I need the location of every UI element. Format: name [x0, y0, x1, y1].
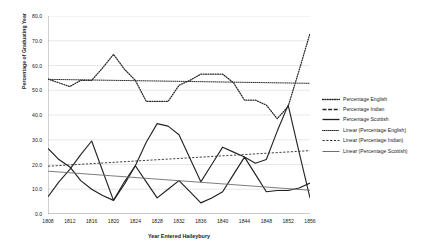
trendline-linear-percentage-indian: [48, 151, 310, 167]
series-line-percentage-english: [48, 33, 310, 118]
series-line-percentage-scottish: [48, 148, 310, 202]
x-tick-label: 1820: [108, 218, 119, 224]
legend-item[interactable]: Percentage Scottish: [322, 115, 433, 125]
legend-item[interactable]: Linear (Percentage Indian): [322, 136, 433, 146]
x-tick-label: 1832: [173, 218, 184, 224]
x-tick-label: 1856: [304, 218, 315, 224]
legend-swatch-icon: [322, 147, 340, 156]
legend-swatch-icon: [322, 95, 340, 104]
plot-svg: [48, 16, 310, 214]
x-tick-label: 1824: [130, 218, 141, 224]
legend-item[interactable]: Percentage English: [322, 94, 433, 104]
chart-container: Percentage of Graduating Year Year Enter…: [0, 0, 433, 249]
legend-label: Percentage Indian: [343, 107, 384, 112]
legend-swatch-icon: [322, 105, 340, 114]
x-tick-label: 1848: [261, 218, 272, 224]
x-tick-label: 1828: [151, 218, 162, 224]
x-tick-label: 1844: [239, 218, 250, 224]
legend-label: Percentage English: [343, 97, 387, 102]
legend-label: Percentage Scottish: [343, 117, 389, 122]
plot-area: [48, 16, 310, 214]
legend-item[interactable]: Linear (Percentage Scottish): [322, 146, 433, 156]
chart-legend: Percentage EnglishPercentage IndianPerce…: [322, 94, 433, 156]
x-tick-label: 1812: [64, 218, 75, 224]
x-tick-label: 1840: [217, 218, 228, 224]
x-tick-label: 1816: [86, 218, 97, 224]
legend-item[interactable]: Percentage Indian: [322, 104, 433, 114]
x-tick-label: 1836: [195, 218, 206, 224]
legend-label: Linear (Percentage Indian): [343, 138, 403, 143]
x-tick-label: 1852: [282, 218, 293, 224]
legend-label: Linear (Percentage Scottish): [343, 149, 408, 154]
legend-swatch-icon: [322, 136, 340, 145]
legend-swatch-icon: [322, 115, 340, 124]
legend-label: Linear (Percentage English): [343, 128, 406, 133]
legend-swatch-icon: [322, 126, 340, 135]
trendline-linear-percentage-scottish: [48, 171, 310, 190]
legend-item[interactable]: Linear (Percentage English): [322, 125, 433, 135]
x-tick-label: 1808: [42, 218, 53, 224]
